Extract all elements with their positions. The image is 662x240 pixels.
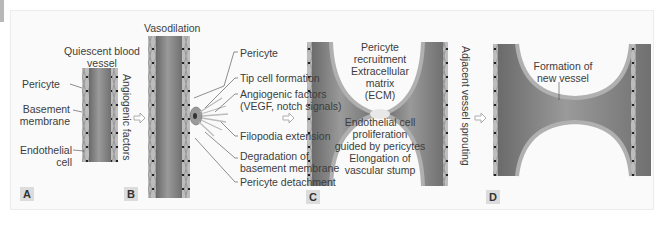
label-tip-cell-formation: Tip cell formation (240, 72, 320, 84)
label-endothelial-proliferation: Endothelial cell proliferation guided by… (330, 116, 430, 176)
label-ecm-line3: (ECM) (340, 89, 420, 101)
label-basement-line1: Basement (14, 103, 70, 115)
label-filopodia-extension: Filopodia extension (240, 130, 330, 142)
label-basement-membrane-a: Basement membrane (14, 103, 70, 127)
label-prolif-line3: guided by pericytes (330, 140, 430, 152)
panel-a-title-line1: Quiescent blood (62, 45, 142, 57)
panel-letter-a: A (20, 187, 34, 201)
label-formation-new-vessel: Formation of new vessel (530, 60, 596, 84)
label-formation-line1: Formation of (530, 60, 596, 72)
label-recruitment-line2: recruitment (340, 53, 420, 65)
panel-b-vessel (148, 36, 238, 198)
label-elong-line1: Elongation of (330, 152, 430, 164)
label-prolif-line1: Endothelial cell (330, 116, 430, 128)
panel-a-vessel (70, 68, 118, 162)
label-pericyte-recruitment-ecm: Pericyte recruitment Extracellular matri… (340, 41, 420, 101)
label-endothelial-cell-a: Endothelial cell (14, 144, 72, 168)
label-pericyte-detachment: Pericyte detachment (240, 176, 336, 188)
label-vasodilation: Vasodilation (144, 22, 200, 34)
arrow-a-to-b (134, 113, 145, 123)
label-degradation-line1: Degradation of (240, 150, 339, 162)
label-ecm-line1: Extracellular (340, 65, 420, 77)
panel-a-title: Quiescent blood vessel (62, 45, 142, 69)
label-basement-line2: membrane (14, 115, 70, 127)
label-endothelial-line2: cell (14, 156, 72, 168)
label-pericyte-a: Pericyte (22, 78, 60, 90)
label-angiogenic-line1: Angiogenic factors (240, 88, 342, 100)
label-angiogenic-factors-b: Angiogenic factors (VEGF, notch signals) (240, 88, 342, 112)
label-formation-line2: new vessel (530, 72, 596, 84)
label-degradation-line2: basement membrane (240, 162, 339, 174)
label-recruitment-line1: Pericyte (340, 41, 420, 53)
arrow-b-to-c (283, 113, 294, 123)
label-angiogenic-factors-transition: Angiogenic factors (121, 74, 133, 160)
label-pericyte-b: Pericyte (240, 47, 278, 59)
panel-a-title-line2: vessel (62, 57, 142, 69)
panel-letter-c: C (306, 190, 320, 204)
label-prolif-line2: proliferation (330, 128, 430, 140)
label-elong-line2: vascular stump (330, 164, 430, 176)
arrow-c-to-d (475, 113, 486, 123)
label-endothelial-line1: Endothelial (14, 144, 72, 156)
panel-letter-d: D (486, 190, 500, 204)
label-degradation-basement-membrane: Degradation of basement membrane (240, 150, 339, 174)
label-ecm-line2: matrix (340, 77, 420, 89)
label-adjacent-vessel-sprouting: Adjacent vessel sprouting (460, 46, 472, 166)
panel-letter-b: B (124, 187, 138, 201)
label-angiogenic-line2: (VEGF, notch signals) (240, 100, 342, 112)
